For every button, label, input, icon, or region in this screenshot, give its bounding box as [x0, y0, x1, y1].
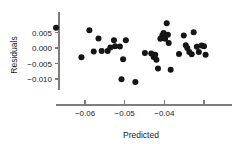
data-point	[176, 51, 182, 57]
x-axis-tick-label: −0.05	[115, 109, 136, 118]
data-point	[166, 40, 172, 46]
data-point	[91, 48, 97, 54]
data-point	[118, 76, 124, 82]
residuals-vs-predicted-scatter-figure: 0.0050.000−0.005−0.010 −0.06−0.05−0.04 R…	[0, 0, 235, 144]
data-points-layer	[53, 20, 209, 85]
data-point	[181, 33, 187, 39]
y-axis-tick-label: −0.005	[27, 60, 52, 69]
y-axis-tick-label: −0.010	[27, 75, 52, 84]
data-point	[152, 52, 158, 58]
data-point	[153, 57, 159, 63]
data-point	[142, 50, 148, 56]
data-point	[155, 65, 161, 71]
data-point	[191, 29, 197, 35]
data-point	[123, 37, 129, 43]
data-point	[168, 67, 174, 73]
data-point	[165, 32, 171, 38]
data-point	[201, 43, 207, 49]
y-axis-tick-label: 0.000	[32, 44, 53, 53]
data-point	[111, 37, 117, 43]
x-axis-tick-label: −0.04	[154, 109, 175, 118]
y-axis-tick-label: 0.005	[32, 29, 53, 38]
data-point	[99, 48, 105, 54]
data-point	[117, 43, 123, 49]
x-axis-tick-label: −0.06	[75, 109, 96, 118]
data-point	[189, 51, 195, 57]
y-axis: 0.0050.000−0.005−0.010	[27, 12, 59, 90]
data-point	[95, 35, 101, 41]
data-point	[120, 56, 126, 62]
x-axis-title: Predicted	[123, 130, 159, 140]
data-point	[196, 49, 202, 55]
data-point	[53, 25, 59, 31]
data-point	[78, 54, 84, 60]
scatter-plot-canvas: 0.0050.000−0.005−0.010 −0.06−0.05−0.04 R…	[0, 0, 235, 144]
data-point	[132, 79, 138, 85]
x-axis: −0.06−0.05−0.04	[56, 100, 232, 118]
data-point	[203, 52, 209, 58]
data-point	[164, 20, 170, 26]
data-point	[86, 27, 92, 33]
y-axis-title: Residuals	[9, 36, 19, 73]
